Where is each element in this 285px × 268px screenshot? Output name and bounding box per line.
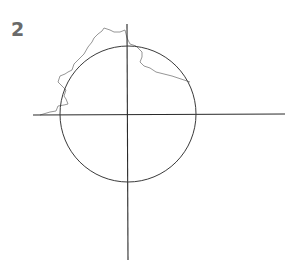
coastline-outline (40, 28, 190, 115)
horizontal-axis (33, 114, 285, 115)
circle-diagram (0, 0, 285, 268)
vertical-axis (127, 24, 128, 260)
